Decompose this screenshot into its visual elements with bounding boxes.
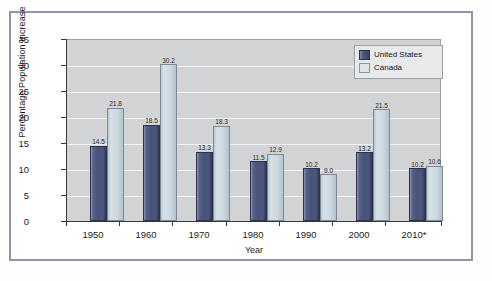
figure: 14.5 21.8 18.5 30.2 13.3 18.3 11.5 xyxy=(0,0,492,281)
bar-us-2000: 13.2 xyxy=(356,152,373,221)
legend-label: United States xyxy=(374,51,422,59)
bar-us-1980: 11.5 xyxy=(250,161,267,221)
bar-us-1970: 13.3 xyxy=(196,152,213,221)
y-tick xyxy=(61,117,66,118)
legend-label: Canada xyxy=(374,64,402,72)
y-axis-line xyxy=(66,39,67,222)
bar-value: 10.2 xyxy=(411,162,424,169)
x-axis-label: Year xyxy=(66,245,442,255)
bar-us-2010: 10.2 xyxy=(409,168,426,221)
gridline xyxy=(66,92,440,93)
y-tick xyxy=(61,195,66,196)
bar-ca-1990: 9.0 xyxy=(320,174,337,221)
bar-us-1950: 14.5 xyxy=(90,146,107,221)
bar-value: 21.5 xyxy=(375,103,388,110)
x-tick xyxy=(279,222,280,226)
legend-swatch-icon xyxy=(359,63,370,73)
legend-swatch-icon xyxy=(359,50,370,60)
x-tick xyxy=(385,222,386,226)
y-tick xyxy=(61,39,66,40)
y-tick-label: 0 xyxy=(0,217,29,227)
x-tick-label: 2010* xyxy=(386,230,442,240)
y-tick-label: 10 xyxy=(0,165,29,175)
bar-value: 21.8 xyxy=(109,101,122,108)
legend: United States Canada xyxy=(354,45,443,79)
x-tick xyxy=(332,222,333,226)
plot-area: 14.5 21.8 18.5 30.2 13.3 18.3 11.5 xyxy=(66,39,441,221)
legend-item-canada: Canada xyxy=(359,62,438,74)
x-tick xyxy=(172,222,173,226)
bar-value: 30.2 xyxy=(162,58,175,65)
bar-value: 13.3 xyxy=(198,145,211,152)
bar-ca-2000: 21.5 xyxy=(373,109,390,221)
bar-value: 11.5 xyxy=(252,155,264,162)
bar-value: 10.6 xyxy=(428,159,441,166)
bar-value: 12.9 xyxy=(269,147,282,154)
bar-ca-1950: 21.8 xyxy=(107,108,124,221)
y-axis-label: Percentage Population Increase xyxy=(17,0,27,147)
bar-ca-1980: 12.9 xyxy=(267,154,284,221)
bar-value: 10.2 xyxy=(305,162,318,169)
bar-us-1990: 10.2 xyxy=(303,168,320,221)
bar-us-1960: 18.5 xyxy=(143,125,160,221)
x-tick xyxy=(119,222,120,226)
y-tick xyxy=(61,65,66,66)
y-tick-label: 5 xyxy=(0,191,29,201)
x-tick xyxy=(441,222,442,226)
bar-value: 18.5 xyxy=(145,118,158,125)
y-tick xyxy=(61,169,66,170)
y-tick xyxy=(61,143,66,144)
x-tick xyxy=(66,222,67,226)
bar-chart: 14.5 21.8 18.5 30.2 13.3 18.3 11.5 xyxy=(9,11,473,261)
bar-ca-2010: 10.6 xyxy=(426,166,443,221)
bar-value: 18.3 xyxy=(215,119,228,126)
x-tick-label: 1970 xyxy=(171,230,227,240)
x-tick-label: 1950 xyxy=(65,230,121,240)
bar-value: 9.0 xyxy=(324,168,333,175)
x-tick-label: 1960 xyxy=(118,230,174,240)
bar-ca-1960: 30.2 xyxy=(160,64,177,221)
x-tick-label: 1990 xyxy=(278,230,334,240)
y-tick xyxy=(61,91,66,92)
bar-value: 14.5 xyxy=(92,139,105,146)
legend-item-united-states: United States xyxy=(359,49,438,61)
bar-ca-1970: 18.3 xyxy=(213,126,230,221)
x-tick-label: 1980 xyxy=(225,230,281,240)
bar-value: 13.2 xyxy=(358,146,371,153)
x-tick-label: 2000 xyxy=(331,230,387,240)
x-tick xyxy=(226,222,227,226)
